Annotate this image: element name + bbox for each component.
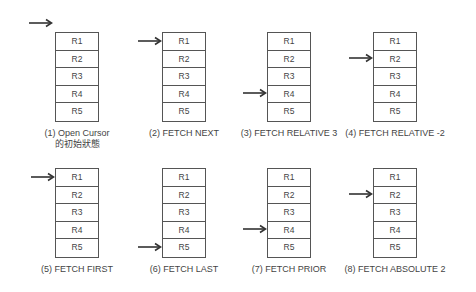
- table-row: R4: [163, 86, 205, 104]
- result-set-table: R1R2R3R4R5: [55, 32, 99, 122]
- table-row: R3: [268, 204, 310, 222]
- panel-caption: (1) Open Cursor的初始狀態: [17, 128, 137, 150]
- table-row: R5: [374, 103, 416, 121]
- table-row: R4: [268, 222, 310, 240]
- caption-line: (5) FETCH FIRST: [17, 264, 137, 275]
- panel-caption: (8) FETCH ABSOLUTE 2: [335, 264, 455, 275]
- panel-caption: (6) FETCH LAST: [124, 264, 244, 275]
- caption-line: (1) Open Cursor: [17, 128, 137, 139]
- table-row: R5: [374, 239, 416, 257]
- arrow-right-icon: [138, 36, 162, 46]
- table-row: R2: [56, 187, 98, 205]
- table-row: R5: [268, 239, 310, 257]
- table-row: R3: [374, 204, 416, 222]
- table-row: R3: [268, 68, 310, 86]
- panel-caption: (4) FETCH RELATIVE -2: [335, 128, 455, 139]
- result-set-table: R1R2R3R4R5: [267, 32, 311, 122]
- arrow-right-icon: [29, 18, 53, 28]
- table-row: R4: [374, 222, 416, 240]
- caption-line-2: 的初始狀態: [17, 139, 137, 150]
- caption-line: (6) FETCH LAST: [124, 264, 244, 275]
- arrow-right-icon: [243, 224, 267, 234]
- arrow-right-icon: [349, 53, 373, 63]
- table-row: R5: [56, 103, 98, 121]
- table-row: R2: [268, 187, 310, 205]
- caption-line: (7) FETCH PRIOR: [229, 264, 349, 275]
- table-row: R3: [56, 68, 98, 86]
- result-set-table: R1R2R3R4R5: [267, 168, 311, 258]
- table-row: R2: [56, 51, 98, 69]
- table-row: R1: [56, 169, 98, 187]
- table-row: R4: [163, 222, 205, 240]
- table-row: R1: [374, 33, 416, 51]
- arrow-right-icon: [349, 189, 373, 199]
- table-row: R1: [163, 33, 205, 51]
- result-set-table: R1R2R3R4R5: [373, 32, 417, 122]
- panel-caption: (3) FETCH RELATIVE 3: [229, 128, 349, 139]
- table-row: R1: [268, 169, 310, 187]
- caption-line: (2) FETCH NEXT: [124, 128, 244, 139]
- result-set-table: R1R2R3R4R5: [373, 168, 417, 258]
- table-row: R4: [56, 222, 98, 240]
- table-row: R3: [163, 204, 205, 222]
- result-set-table: R1R2R3R4R5: [162, 168, 206, 258]
- table-row: R3: [56, 204, 98, 222]
- result-set-table: R1R2R3R4R5: [162, 32, 206, 122]
- result-set-table: R1R2R3R4R5: [55, 168, 99, 258]
- table-row: R2: [374, 51, 416, 69]
- panel-caption: (7) FETCH PRIOR: [229, 264, 349, 275]
- table-row: R2: [163, 187, 205, 205]
- table-row: R1: [268, 33, 310, 51]
- arrow-right-icon: [138, 242, 162, 252]
- arrow-right-icon: [31, 172, 55, 182]
- table-row: R1: [56, 33, 98, 51]
- table-row: R2: [268, 51, 310, 69]
- table-row: R2: [163, 51, 205, 69]
- table-row: R4: [374, 86, 416, 104]
- panel-caption: (5) FETCH FIRST: [17, 264, 137, 275]
- arrow-right-icon: [243, 88, 267, 98]
- table-row: R4: [268, 86, 310, 104]
- caption-line: (8) FETCH ABSOLUTE 2: [335, 264, 455, 275]
- caption-line: (3) FETCH RELATIVE 3: [229, 128, 349, 139]
- table-row: R5: [163, 239, 205, 257]
- panel-caption: (2) FETCH NEXT: [124, 128, 244, 139]
- table-row: R1: [374, 169, 416, 187]
- table-row: R3: [374, 68, 416, 86]
- table-row: R5: [163, 103, 205, 121]
- table-row: R4: [56, 86, 98, 104]
- table-row: R1: [163, 169, 205, 187]
- table-row: R5: [56, 239, 98, 257]
- table-row: R3: [163, 68, 205, 86]
- table-row: R5: [268, 103, 310, 121]
- caption-line: (4) FETCH RELATIVE -2: [335, 128, 455, 139]
- table-row: R2: [374, 187, 416, 205]
